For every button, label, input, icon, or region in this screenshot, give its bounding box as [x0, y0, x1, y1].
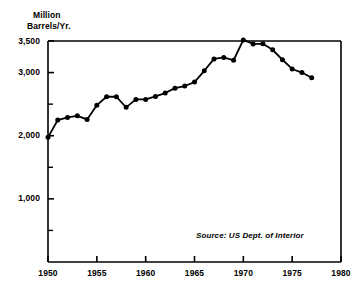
data-point-marker: [290, 66, 295, 71]
data-point-marker: [104, 94, 109, 99]
data-point-marker: [299, 70, 304, 75]
data-point-marker: [143, 97, 148, 102]
data-point-marker: [251, 41, 256, 46]
data-point-marker: [270, 47, 275, 52]
chart-container: Million Barrels/Yr. 3,5003,0002,0001,000…: [0, 0, 364, 295]
data-point-marker: [241, 37, 246, 42]
axis-lines: [48, 41, 341, 262]
data-line-series: [48, 40, 312, 137]
data-point-marker: [133, 97, 138, 102]
data-point-marker: [202, 68, 207, 73]
data-point-marker: [309, 75, 314, 80]
data-point-marker: [153, 94, 158, 99]
data-point-marker: [260, 41, 265, 46]
data-point-marker: [221, 55, 226, 60]
data-point-marker: [124, 105, 129, 110]
data-point-marker: [231, 58, 236, 63]
data-point-marker: [94, 103, 99, 108]
data-point-marker: [65, 115, 70, 120]
source-annotation: Source: US Dept. of Interior: [196, 231, 304, 240]
data-point-marker: [114, 94, 119, 99]
data-point-marker: [212, 56, 217, 61]
data-point-marker: [85, 117, 90, 122]
data-point-markers: [46, 37, 315, 139]
data-point-marker: [75, 113, 80, 118]
data-point-marker: [192, 80, 197, 85]
series-polyline: [48, 40, 312, 137]
data-point-marker: [182, 84, 187, 89]
data-point-marker: [172, 86, 177, 91]
data-point-marker: [55, 118, 60, 123]
data-point-marker: [280, 57, 285, 62]
x-axis-ticks: [48, 256, 341, 262]
chart-plot-area: [0, 0, 364, 295]
data-point-marker: [163, 91, 168, 96]
data-point-marker: [46, 135, 51, 140]
